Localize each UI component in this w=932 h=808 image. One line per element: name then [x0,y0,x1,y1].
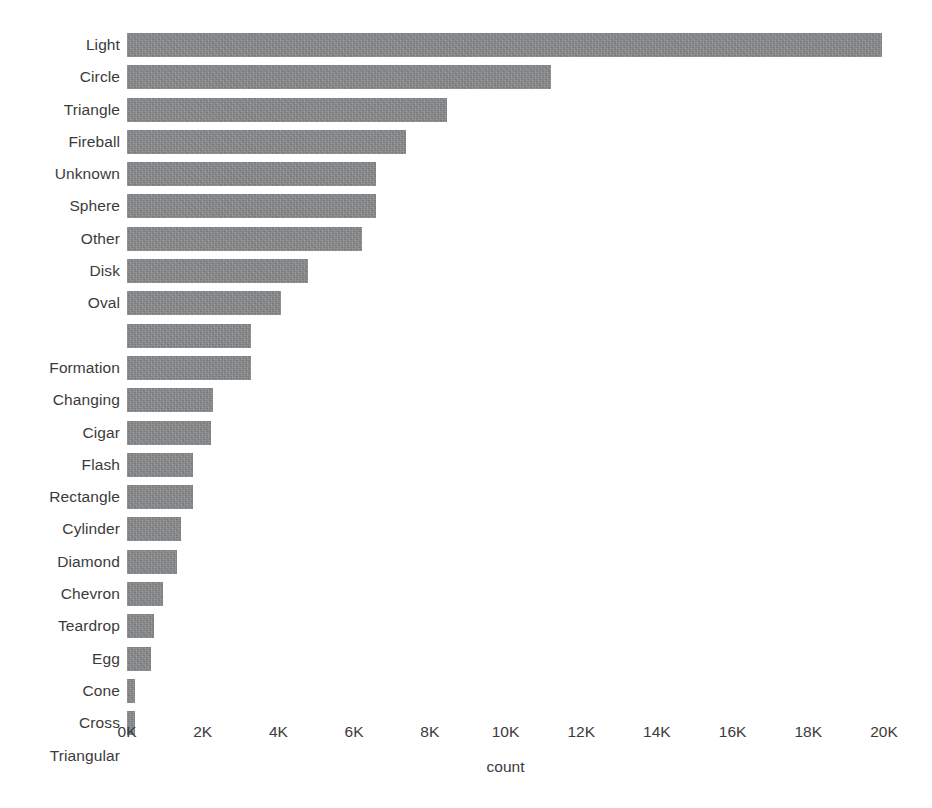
x-tick-label: 2K [173,722,233,742]
category-label: Egg [0,650,120,668]
bar-track [127,485,193,509]
bar [127,388,213,412]
x-tick-label: 20K [854,722,914,742]
category-label: Other [0,230,120,248]
category-label: Formation [0,359,120,377]
category-label: Triangle [0,101,120,119]
bar [127,194,376,218]
category-label: Disk [0,262,120,280]
x-tick-label: 6K [324,722,384,742]
category-label: Cylinder [0,520,120,538]
bar [127,291,281,315]
bar [127,130,406,154]
bar-row [0,320,932,352]
category-label: Sphere [0,197,120,215]
bar-track [127,98,447,122]
bar-track [127,33,882,57]
bar-row: Teardrop [0,610,932,642]
bar-row: Cylinder [0,513,932,545]
category-label: Oval [0,294,120,312]
category-label: Cigar [0,424,120,442]
category-label: Teardrop [0,617,120,635]
bar-row: Other [0,223,932,255]
x-axis-title: count [127,757,884,777]
x-tick-label: 10K [476,722,536,742]
bar [127,582,163,606]
bar-row: Triangle [0,93,932,125]
bar-track [127,259,308,283]
bar [127,227,362,251]
x-tick-label: 16K [703,722,763,742]
bar [127,65,551,89]
bar-track [127,291,281,315]
bar-row: Chevron [0,578,932,610]
category-label: Circle [0,68,120,86]
bar-track [127,582,163,606]
category-label: Changing [0,391,120,409]
category-label: Fireball [0,133,120,151]
bar-row: Oval [0,287,932,319]
bar [127,550,177,574]
bar-track [127,227,362,251]
bar-track [127,162,376,186]
bar [127,324,251,348]
bar-row: Sphere [0,190,932,222]
bar-track [127,324,251,348]
category-label: Diamond [0,553,120,571]
x-tick-label: 4K [248,722,308,742]
bar [127,517,181,541]
category-label: Cone [0,682,120,700]
bar-row: Cigar [0,416,932,448]
bar-track [127,453,193,477]
bar-row: Changing [0,384,932,416]
category-label: Light [0,36,120,54]
x-axis-tick-labels: 0K2K4K6K8K10K12K14K16K18K20K [0,722,932,752]
bar [127,356,251,380]
bar-row: Disk [0,255,932,287]
category-label: Rectangle [0,488,120,506]
x-tick-label: 14K [627,722,687,742]
category-label: Chevron [0,585,120,603]
bar-row: Flash [0,449,932,481]
bar-row: Unknown [0,158,932,190]
bar-track [127,388,213,412]
bar [127,679,135,703]
bar [127,162,376,186]
bar-row: Cone [0,675,932,707]
category-label: Unknown [0,165,120,183]
bar [127,453,193,477]
bar-track [127,356,251,380]
bar [127,421,211,445]
bar-track [127,679,135,703]
bar-row: Light [0,29,932,61]
bar [127,614,154,638]
bar-row: Rectangle [0,481,932,513]
bar-track [127,647,151,671]
x-tick-label: 0K [97,722,157,742]
bar-track [127,65,551,89]
x-tick-label: 12K [551,722,611,742]
bar-chart: LightCircleTriangleFireballUnknownSphere… [0,0,932,808]
bar-track [127,614,154,638]
bar-track [127,517,181,541]
category-label: Flash [0,456,120,474]
bar-track [127,194,376,218]
bar-track [127,130,406,154]
bar-row: Diamond [0,546,932,578]
bar-row: Egg [0,643,932,675]
bar [127,33,882,57]
x-tick-label: 8K [400,722,460,742]
bar-track [127,421,211,445]
x-tick-label: 18K [778,722,838,742]
bar-row: Formation [0,352,932,384]
bar-row: Fireball [0,126,932,158]
bar [127,259,308,283]
bar-row: Circle [0,61,932,93]
bar [127,485,193,509]
bar [127,647,151,671]
plot-area: LightCircleTriangleFireballUnknownSphere… [0,0,932,700]
bar-track [127,550,177,574]
bar [127,98,447,122]
